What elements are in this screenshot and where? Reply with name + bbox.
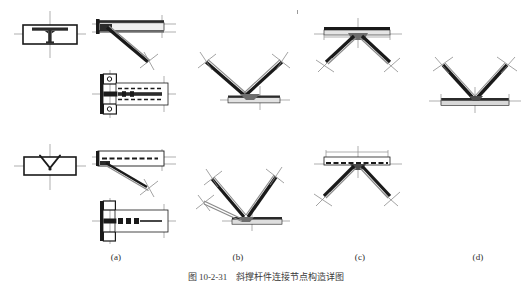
end-plate — [96, 19, 100, 34]
beam-web — [441, 100, 509, 105]
column-label-d: (d) — [458, 252, 498, 262]
panel-vee-brace-above-beam — [425, 55, 525, 117]
brace-end-marks — [433, 57, 517, 73]
beam-top-flange — [98, 20, 164, 23]
base-mark — [46, 41, 54, 43]
stiffener-top — [103, 201, 115, 210]
panel-inverted-vee-brace-under-beam — [310, 14, 406, 76]
section-box — [24, 157, 76, 175]
panel-vee-brace-below-beam — [196, 50, 292, 112]
web-plate — [48, 30, 51, 43]
brace-end-marks — [196, 167, 284, 211]
root-dot — [48, 167, 51, 170]
column-label-c: (c) — [340, 252, 380, 262]
panel-vee-brace-below-beam-double — [192, 165, 292, 233]
panel-gusset-plate-plan — [92, 68, 178, 120]
connection-plate — [103, 92, 117, 97]
bolt-hole-top — [107, 77, 111, 81]
column-label-a: (a) — [96, 252, 136, 262]
column-label-b: (b) — [218, 252, 258, 262]
panel-tee-joint-section-symbol — [10, 8, 90, 60]
end-plate — [96, 151, 99, 166]
brace-right — [246, 175, 276, 217]
center-bolt-marks — [118, 218, 139, 224]
beam-top-flange — [324, 27, 390, 30]
panel-single-brace-elevation-alt — [92, 145, 178, 203]
brace-right — [360, 36, 390, 64]
stiffener-bottom — [103, 232, 115, 241]
brace-right — [360, 166, 390, 198]
panel-gusset-plate-plan-alt — [92, 196, 178, 246]
brace-left — [206, 60, 246, 95]
brace-right — [244, 60, 282, 95]
panel-inverted-vee-brace-under-beam-alt — [310, 140, 406, 210]
stray-speck — [297, 10, 298, 14]
figure-sheet: (a) (b) (c) (d) 图 10-2-31 斜撑杆件连接节点构造详图 — [0, 0, 532, 281]
panel-single-brace-elevation — [92, 12, 178, 74]
diagonal-brace — [106, 163, 149, 191]
figure-caption: 图 10-2-31 斜撑杆件连接节点构造详图 — [0, 271, 532, 281]
brace-left-upper — [212, 177, 246, 217]
brace-right — [475, 63, 507, 98]
connection-plate — [103, 219, 116, 224]
brace-left — [443, 63, 475, 98]
panel-vee-groove-weld-symbol — [10, 140, 90, 192]
bolt-hole-bottom — [107, 107, 111, 111]
brace-end-marks — [140, 179, 158, 197]
